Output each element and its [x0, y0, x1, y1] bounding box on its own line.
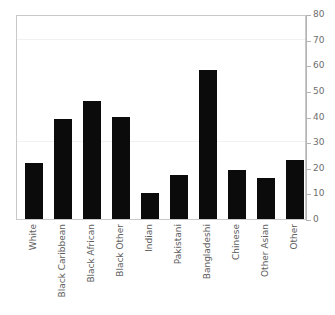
- y-axis-tick: [306, 66, 311, 67]
- bar-chart: 01020304050607080 WhiteBlack CaribbeanBl…: [0, 0, 335, 315]
- x-axis-category-label: Pakistani: [173, 224, 182, 264]
- y-axis-tick: [306, 169, 311, 170]
- y-axis-tick-label: 40: [313, 113, 324, 122]
- y-axis-tick: [306, 118, 311, 119]
- bar: [199, 70, 217, 219]
- bars-group: [17, 16, 305, 219]
- x-axis-label-slot: Black Caribbean: [47, 221, 76, 315]
- x-axis-label-slot: Chinese: [221, 221, 250, 315]
- y-axis-tick: [306, 15, 311, 16]
- x-axis-category-label: Black Other: [115, 224, 124, 277]
- bar: [83, 101, 101, 219]
- y-axis-tick-label: 10: [313, 189, 324, 198]
- bar: [257, 178, 275, 219]
- x-axis-label-slot: Black Other: [105, 221, 134, 315]
- bar: [286, 160, 304, 219]
- bar: [54, 119, 72, 219]
- bar: [141, 193, 159, 219]
- x-axis-category-label: Other Asian: [260, 224, 269, 277]
- y-axis-tick-label: 80: [313, 10, 324, 19]
- y-axis-tick-label: 60: [313, 61, 324, 70]
- x-axis-category-label: Bangladeshi: [202, 224, 211, 279]
- y-axis-tick-label: 50: [313, 87, 324, 96]
- x-axis-label-slot: Indian: [134, 221, 163, 315]
- y-axis-tick-label: 0: [313, 215, 319, 224]
- x-axis-label-slot: Black African: [76, 221, 105, 315]
- bar: [25, 163, 43, 219]
- y-axis-tick-label: 30: [313, 138, 324, 147]
- x-axis-category-label: White: [28, 224, 37, 250]
- plot-area: [16, 15, 306, 220]
- x-axis-category-label: Chinese: [231, 224, 240, 260]
- y-axis-tick-label: 20: [313, 164, 324, 173]
- x-axis-label-slot: Other Asian: [250, 221, 279, 315]
- y-axis-tick: [306, 41, 311, 42]
- x-axis-labels: WhiteBlack CaribbeanBlack AfricanBlack O…: [16, 221, 306, 315]
- y-axis-tick: [306, 143, 311, 144]
- x-axis-label-slot: Pakistani: [163, 221, 192, 315]
- bar: [112, 117, 130, 220]
- x-axis-category-label: Black African: [86, 224, 95, 283]
- x-axis-label-slot: Other: [279, 221, 308, 315]
- bar: [228, 170, 246, 219]
- x-axis-category-label: Other: [289, 224, 298, 250]
- y-axis-tick: [306, 194, 311, 195]
- x-axis-label-slot: Bangladeshi: [192, 221, 221, 315]
- x-axis-category-label: Black Caribbean: [57, 224, 66, 297]
- x-axis-label-slot: White: [18, 221, 47, 315]
- bar: [170, 175, 188, 219]
- x-axis-category-label: Indian: [144, 224, 153, 252]
- y-axis-tick-label: 70: [313, 36, 324, 45]
- y-axis-tick: [306, 92, 311, 93]
